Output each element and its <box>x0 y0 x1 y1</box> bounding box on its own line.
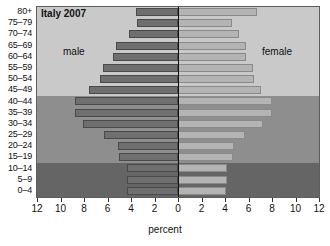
bar-female-55-59 <box>178 64 253 72</box>
age-group-label: 65–69 <box>8 40 32 51</box>
x-tick <box>296 198 297 202</box>
x-tick-label: 8 <box>81 203 87 214</box>
x-tick <box>61 198 62 202</box>
bar-male-10-14 <box>127 164 178 172</box>
x-tick-label: 4 <box>222 203 228 214</box>
legend-label-male: male <box>63 46 85 57</box>
age-group-label: 80+ <box>17 6 32 17</box>
age-group-label: 55–59 <box>8 62 32 73</box>
age-group-label: 10–14 <box>8 163 32 174</box>
bar-male-75-79 <box>137 19 178 27</box>
age-group-label: 30–34 <box>8 118 32 129</box>
age-group-label: 75–79 <box>8 17 32 28</box>
age-group-label: 20–24 <box>8 140 32 151</box>
bar-female-60-64 <box>178 53 246 61</box>
age-group-label: 15–19 <box>8 151 32 162</box>
bar-female-10-14 <box>178 164 227 172</box>
bar-female-35-39 <box>178 109 272 117</box>
x-tick-label: 12 <box>313 203 324 214</box>
x-tick-label: 8 <box>269 203 275 214</box>
age-group-label: 60–64 <box>8 51 32 62</box>
bar-male-0-4 <box>127 187 178 195</box>
x-tick-label: 6 <box>246 203 252 214</box>
x-tick <box>131 198 132 202</box>
x-tick <box>225 198 226 202</box>
bar-female-0-4 <box>178 187 226 195</box>
x-tick <box>202 198 203 202</box>
bar-female-15-19 <box>178 153 233 161</box>
x-tick-label: 0 <box>175 203 181 214</box>
bar-female-5-9 <box>178 176 227 184</box>
x-tick <box>249 198 250 202</box>
bar-female-80+ <box>178 8 257 16</box>
age-group-label: 45–49 <box>8 84 32 95</box>
age-group-label: 70–74 <box>8 28 32 39</box>
bar-male-65-69 <box>116 42 178 50</box>
age-group-label: 0–4 <box>18 185 32 196</box>
bar-female-75-79 <box>178 19 232 27</box>
x-tick-label: 4 <box>128 203 134 214</box>
bar-female-20-24 <box>178 142 234 150</box>
bar-female-25-29 <box>178 131 245 139</box>
bar-male-60-64 <box>113 53 178 61</box>
x-axis: 12108642024681012 <box>36 198 320 222</box>
x-tick <box>155 198 156 202</box>
bar-male-45-49 <box>89 86 178 94</box>
age-group-label: 35–39 <box>8 107 32 118</box>
x-tick-label: 10 <box>55 203 66 214</box>
x-tick-label: 12 <box>31 203 42 214</box>
bar-male-20-24 <box>118 142 178 150</box>
bar-male-70-74 <box>129 30 178 38</box>
age-group-label: 25–29 <box>8 129 32 140</box>
age-group-label: 5–9 <box>18 174 32 185</box>
bar-male-5-9 <box>127 176 178 184</box>
x-tick <box>272 198 273 202</box>
x-tick <box>37 198 38 202</box>
legend-label-female: female <box>262 46 292 57</box>
bar-male-15-19 <box>119 153 178 161</box>
bar-male-40-44 <box>75 97 178 105</box>
x-tick-label: 10 <box>290 203 301 214</box>
age-group-axis: 0–45–910–1415–1920–2425–2930–3435–3940–4… <box>0 6 34 198</box>
bar-female-45-49 <box>178 86 261 94</box>
x-tick <box>319 198 320 202</box>
bar-male-25-29 <box>104 131 178 139</box>
population-pyramid-chart: 0–45–910–1415–1920–2425–2930–3435–3940–4… <box>0 0 330 246</box>
bar-female-50-54 <box>178 75 254 83</box>
bar-male-30-34 <box>83 120 178 128</box>
age-group-label: 50–54 <box>8 73 32 84</box>
bar-male-80+ <box>136 8 178 16</box>
zero-axis-line <box>178 7 179 197</box>
x-tick-label: 6 <box>105 203 111 214</box>
bar-male-55-59 <box>103 64 178 72</box>
plot-area <box>36 6 320 198</box>
x-tick-label: 2 <box>199 203 205 214</box>
chart-title: Italy 2007 <box>41 8 86 19</box>
x-tick-label: 2 <box>152 203 158 214</box>
bar-male-35-39 <box>75 109 178 117</box>
bar-female-65-69 <box>178 42 246 50</box>
x-tick <box>84 198 85 202</box>
bar-male-50-54 <box>100 75 178 83</box>
bar-female-70-74 <box>178 30 239 38</box>
age-group-label: 40–44 <box>8 96 32 107</box>
bar-female-30-34 <box>178 120 263 128</box>
x-tick <box>108 198 109 202</box>
x-tick <box>178 198 179 202</box>
bar-female-40-44 <box>178 97 272 105</box>
x-axis-label: percent <box>0 224 330 235</box>
